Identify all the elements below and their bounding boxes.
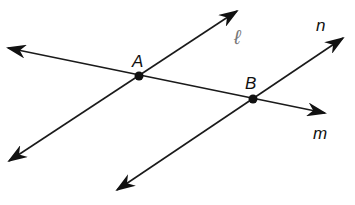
line-n-label: n bbox=[316, 16, 325, 35]
geometry-diagram: A B ℓ n m bbox=[0, 0, 355, 205]
point-b-label: B bbox=[245, 74, 256, 93]
line-l bbox=[9, 11, 237, 161]
line-n bbox=[117, 38, 343, 190]
line-l-label: ℓ bbox=[233, 26, 242, 48]
point-a-label: A bbox=[131, 52, 143, 71]
point-a bbox=[135, 72, 144, 81]
line-m-label: m bbox=[313, 124, 327, 143]
point-b bbox=[249, 95, 258, 104]
